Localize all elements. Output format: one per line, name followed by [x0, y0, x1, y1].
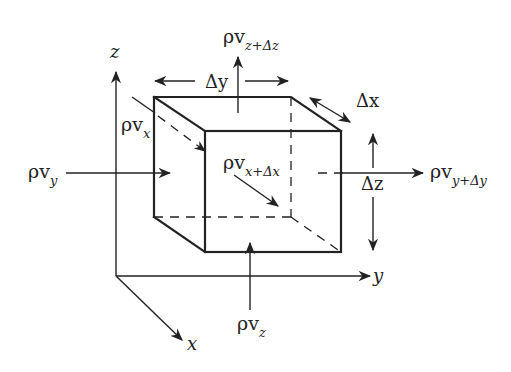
- flux-in-z-label: ρvz: [237, 312, 266, 340]
- flux-out-z-label: ρvz+Δz: [223, 25, 279, 53]
- flux-out-x-label: ρvx+Δx: [223, 151, 281, 179]
- flux-in-y-label: ρvy: [28, 160, 58, 188]
- dy-label: Δy: [205, 71, 229, 92]
- dx-label: Δx: [356, 90, 379, 111]
- x-axis: [116, 276, 182, 340]
- flux-out-y-label: ρvy+Δy: [430, 160, 488, 188]
- dx-arrow: [310, 98, 350, 122]
- cube-front-face: [205, 131, 341, 252]
- flux-out-x-arrow: [234, 175, 278, 206]
- y-axis-label: y: [372, 265, 384, 286]
- dz-label: Δz: [361, 173, 383, 194]
- flux-in-x-arrow: [158, 116, 205, 151]
- flux-in-x-label: ρvx: [121, 113, 151, 141]
- x-axis-label: x: [187, 333, 197, 354]
- z-axis-label: z: [109, 41, 120, 62]
- control-volume-diagram: z y x Δy Δx Δz ρvy ρvy+Δy ρvx ρvx+Δx ρvz…: [0, 0, 511, 372]
